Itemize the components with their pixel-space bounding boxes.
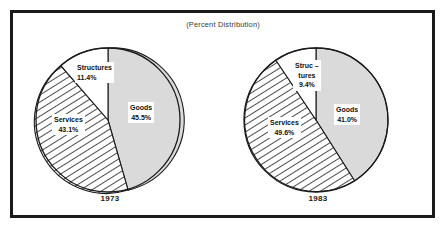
pie-label-services-1973: Services 43.1% bbox=[52, 114, 85, 135]
pie-label-structures-pct-1983: 9.4% bbox=[295, 80, 319, 90]
pie-label-services-1983: Services 49.6% bbox=[268, 117, 301, 138]
pie-label-structures-line2-1983: tures bbox=[295, 71, 319, 81]
pie-label-structures-line1-1983: Struc – bbox=[295, 62, 319, 69]
pie-year-label-1983: 1983 bbox=[238, 194, 398, 203]
pie-label-services-pct-1973: 43.1% bbox=[54, 125, 83, 135]
pie-label-structures-name-1973: Structures bbox=[77, 64, 112, 71]
pie-label-structures-pct-1973: 11.4% bbox=[77, 73, 112, 83]
pie-label-structures-1973: Structures 11.4% bbox=[75, 62, 114, 83]
pie-label-goods-1973: Goods 45.5% bbox=[128, 102, 154, 123]
pie-label-goods-pct-1983: 41.0% bbox=[336, 115, 358, 125]
pie-label-goods-name-1983: Goods bbox=[336, 106, 358, 113]
pie-label-services-name-1983: Services bbox=[270, 119, 299, 126]
pie-label-goods-1983: Goods 41.0% bbox=[334, 104, 360, 125]
pie-panel-1983: Struc – tures 9.4% Services 49.6% Goods … bbox=[238, 44, 398, 212]
pie-label-services-pct-1983: 49.6% bbox=[270, 128, 299, 138]
pie-label-services-name-1973: Services bbox=[54, 116, 83, 123]
pie-label-goods-name-1973: Goods bbox=[130, 104, 152, 111]
chart-title: (Percent Distribution) bbox=[0, 20, 446, 29]
pie-year-label-1973: 1973 bbox=[30, 194, 190, 203]
pie-label-goods-pct-1973: 45.5% bbox=[130, 113, 152, 123]
pie-panel-1973: Structures 11.4% Services 43.1% Goods 45… bbox=[30, 44, 190, 212]
pie-chart-figure: (Percent Distribution) Structures 11.4% bbox=[0, 0, 446, 231]
pie-label-structures-1983: Struc – tures 9.4% bbox=[293, 60, 321, 91]
